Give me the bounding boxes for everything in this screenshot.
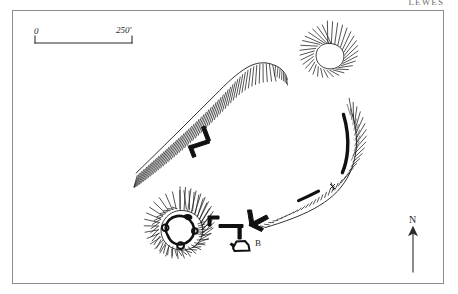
plan-page: LEWES [0,0,458,294]
scale-bar-end-label: 250' [116,25,131,35]
feature-label-b: B [255,238,261,248]
plate-heading: LEWES [409,0,445,7]
north-arrow-label: N [409,214,416,225]
scale-bar-start-label: 0 [34,26,39,36]
map-frame [12,10,444,284]
